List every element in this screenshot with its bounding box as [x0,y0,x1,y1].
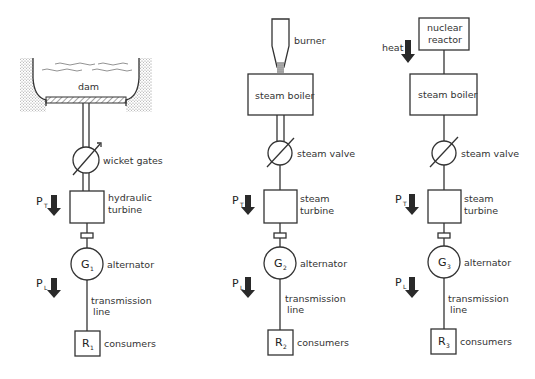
generator-index: 1 [90,265,94,272]
steam-turbine-box [428,190,461,223]
load-symbol: R [82,337,90,350]
pl-index: L [403,283,407,290]
transmission-label-2: line [93,306,110,317]
boiler-label: steam boiler [255,90,315,101]
dam-label: dam [78,81,99,92]
turbine-label-2: turbine [464,205,498,216]
burner-label: burner [294,35,326,46]
steam-turbine-box [264,190,297,223]
load-symbol: R [438,335,446,348]
transmission-label-1: transmission [448,293,509,304]
steam-valve-label: steam valve [297,148,355,159]
pt-symbol: P [395,193,402,206]
heat-label: heat [382,42,404,53]
alternator-label: alternator [464,257,511,268]
pt-index: T [402,200,407,207]
fossil-column: burner steam boiler steam valve steam tu… [232,19,355,355]
pl-index: L [44,284,48,291]
turbine-label-1: steam [464,193,494,204]
pt-index: T [239,201,244,208]
wicket-gates-label: wicket gates [103,155,163,166]
pt-symbol: P [36,195,43,208]
boiler-label: steam boiler [418,89,478,100]
alternator-label: alternator [107,259,154,270]
hydraulic-turbine-box [70,191,104,223]
consumers-label: consumers [104,338,156,349]
turbine-label-1: steam [300,193,330,204]
load-symbol: R [275,336,283,349]
pl-symbol: P [395,276,402,289]
water-ripples [42,63,132,71]
hydro-column: dam wicket gates hydraulic turbine P T G… [20,58,163,356]
turbine-label-2: turbine [108,204,142,215]
generator-symbol: G [81,258,90,271]
generator-symbol: G [438,256,447,269]
pl-arrow-icon [47,278,61,298]
wicket-gates-valve [73,143,101,175]
generator-index: 2 [283,264,287,271]
pl-symbol: P [232,277,239,290]
steam-valve [430,137,458,167]
reactor-label-2: reactor [428,34,462,45]
shaft-coupling [81,233,93,238]
load-index: 2 [283,343,287,350]
transmission-label-2: line [287,304,304,315]
alternator-label: alternator [300,258,347,269]
generator-index: 3 [447,263,451,270]
transmission-label-1: transmission [91,295,152,306]
flame-icon [277,62,284,73]
nuclear-column: nuclear reactor heat steam boiler steam … [382,18,519,354]
generator-symbol: G [274,257,283,270]
load-index: 1 [90,344,94,351]
shaft-coupling [438,233,450,238]
burner [272,19,289,67]
turbine-label-1: hydraulic [108,192,152,203]
shaft-coupling [274,233,286,238]
transmission-label-1: transmission [285,293,346,304]
pt-arrow-icon [405,194,419,215]
turbine-label-2: turbine [300,205,334,216]
dam-floor [46,97,126,103]
reactor-label-1: nuclear [427,22,463,33]
consumers-label: consumers [460,336,512,347]
consumers-label: consumers [297,337,349,348]
pt-arrow-icon [47,195,61,216]
pl-symbol: P [36,277,43,290]
steam-valve-label: steam valve [461,148,519,159]
pl-arrow-icon [405,277,419,298]
steam-valve [267,138,294,167]
pl-index: L [240,284,244,291]
transmission-label-2: line [450,304,467,315]
power-plant-diagram: dam wicket gates hydraulic turbine P T G… [0,0,535,379]
pt-symbol: P [232,194,239,207]
load-index: 3 [446,342,450,349]
pt-index: T [43,202,48,209]
